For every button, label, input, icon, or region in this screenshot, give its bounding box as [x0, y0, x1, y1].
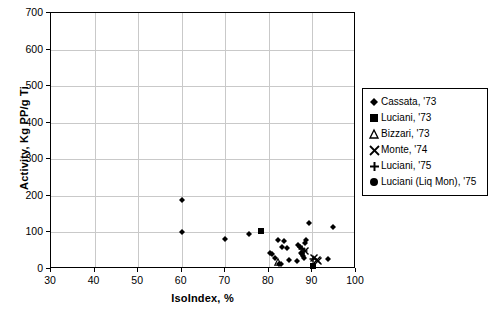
gridline-vertical	[138, 13, 139, 267]
x-tick-label: 70	[204, 274, 244, 286]
gridline-horizontal	[51, 196, 354, 197]
plus-marker-icon	[368, 160, 380, 172]
data-point	[330, 224, 336, 230]
legend-item[interactable]: Cassata, '73	[368, 94, 483, 110]
data-point	[281, 238, 287, 244]
data-point	[258, 228, 264, 234]
legend-item[interactable]: Monte, '74	[368, 142, 483, 158]
y-axis-tick	[46, 122, 50, 123]
data-point	[325, 256, 331, 262]
data-point	[179, 197, 185, 203]
data-point	[310, 255, 317, 262]
legend-item-label: Luciani, '73	[381, 113, 431, 123]
y-tick-label: 0	[11, 262, 43, 274]
data-point	[246, 231, 252, 237]
legend-item[interactable]: Bizzari, '73	[368, 126, 483, 142]
legend-item[interactable]: Luciani (Liq Mon), '75	[368, 174, 483, 190]
y-axis-tick	[46, 195, 50, 196]
data-point	[222, 236, 228, 242]
x-marker-icon	[368, 144, 380, 156]
gridline-horizontal	[51, 123, 354, 124]
y-tick-label: 700	[11, 6, 43, 18]
data-point	[286, 257, 292, 263]
data-point	[301, 255, 307, 261]
data-point	[294, 258, 300, 264]
gridline-horizontal	[51, 232, 354, 233]
legend-item-label: Bizzari, '73	[381, 129, 430, 139]
legend-item-label: Luciani, '75	[381, 161, 431, 171]
triangle-marker-icon	[368, 128, 380, 140]
legend-item-label: Monte, '74	[381, 145, 427, 155]
legend-item-label: Cassata, '73	[381, 97, 436, 107]
x-tick-label: 30	[30, 274, 70, 286]
gridline-vertical	[225, 13, 226, 267]
x-axis-tick	[311, 268, 312, 272]
gridline-horizontal	[51, 159, 354, 160]
data-point	[275, 237, 281, 243]
x-tick-label: 100	[335, 274, 375, 286]
x-axis-title: IsoIndex, %	[50, 292, 355, 304]
legend: Cassata, '73Luciani, '73Bizzari, '73Mont…	[362, 88, 488, 196]
y-axis-tick	[46, 85, 50, 86]
y-axis-tick	[46, 49, 50, 50]
circle-marker-icon	[368, 176, 380, 188]
x-tick-label: 60	[161, 274, 201, 286]
y-axis-tick	[46, 231, 50, 232]
x-tick-label: 90	[291, 274, 331, 286]
x-axis-tick	[181, 268, 182, 272]
diamond-marker-icon	[368, 96, 380, 108]
x-axis-tick	[268, 268, 269, 272]
plot-area	[50, 12, 355, 268]
x-tick-label: 50	[117, 274, 157, 286]
data-point	[274, 258, 281, 265]
x-axis-tick	[50, 268, 51, 272]
chart-root: 30405060708090100 0100200300400500600700…	[0, 0, 491, 315]
square-marker-icon	[368, 112, 380, 124]
gridline-horizontal	[51, 50, 354, 51]
gridline-vertical	[269, 13, 270, 267]
data-point	[300, 247, 307, 254]
x-tick-label: 80	[248, 274, 288, 286]
data-point	[179, 229, 185, 235]
y-axis-tick	[46, 268, 50, 269]
data-point	[303, 237, 309, 243]
gridline-vertical	[312, 13, 313, 267]
legend-item-label: Luciani (Liq Mon), '75	[381, 177, 476, 187]
data-point	[306, 220, 312, 226]
x-tick-label: 40	[74, 274, 114, 286]
legend-item[interactable]: Luciani, '73	[368, 110, 483, 126]
y-axis-tick	[46, 158, 50, 159]
y-tick-label: 100	[11, 225, 43, 237]
x-axis-tick	[224, 268, 225, 272]
y-axis-tick	[46, 12, 50, 13]
x-axis-tick	[94, 268, 95, 272]
data-point	[284, 245, 290, 251]
x-axis-tick	[137, 268, 138, 272]
gridline-vertical	[95, 13, 96, 267]
legend-item[interactable]: Luciani, '75	[368, 158, 483, 174]
gridline-horizontal	[51, 86, 354, 87]
x-axis-tick	[355, 268, 356, 272]
y-axis-title: Activity, Kg PP/g Ti	[18, 53, 30, 223]
